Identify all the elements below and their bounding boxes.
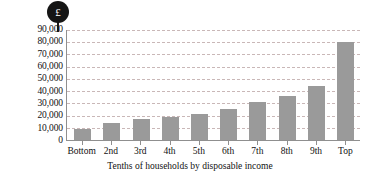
bar-series	[68, 30, 360, 140]
x-axis-label-4th: 4th	[155, 145, 184, 159]
currency-badge-icon: £	[47, 1, 69, 23]
bar-3rd[interactable]	[133, 119, 150, 140]
bar-slot	[331, 30, 360, 140]
y-axis-tick-label: 80,000	[0, 38, 63, 48]
bar-slot	[97, 30, 126, 140]
bar-slot	[68, 30, 97, 140]
x-axis-title: Tenths of households by disposable incom…	[0, 160, 380, 172]
plot-area	[66, 30, 360, 141]
bar-slot	[272, 30, 301, 140]
y-axis-tick-label: 50,000	[0, 75, 63, 85]
bar-bottom[interactable]	[74, 129, 91, 140]
y-axis-tick-label: 40,000	[0, 87, 63, 97]
bar-slot	[156, 30, 185, 140]
bar-2nd[interactable]	[103, 123, 120, 140]
bar-slot	[243, 30, 272, 140]
bar-4th[interactable]	[162, 117, 179, 140]
y-axis-tick-label: 30,000	[0, 99, 63, 109]
x-axis-label-9th: 9th	[301, 145, 330, 159]
y-axis-tick-label: 60,000	[0, 62, 63, 72]
bar-slot	[214, 30, 243, 140]
bar-slot	[302, 30, 331, 140]
bar-6th[interactable]	[220, 109, 237, 140]
bar-slot	[126, 30, 155, 140]
bar-5th[interactable]	[191, 114, 208, 140]
y-axis-tick-label: 10,000	[0, 124, 63, 134]
x-axis-label-6th: 6th	[213, 145, 242, 159]
bar-chart: £ 90,00080,00070,00060,00050,00040,00030…	[0, 0, 380, 179]
x-axis-label-8th: 8th	[272, 145, 301, 159]
bar-9th[interactable]	[308, 86, 325, 140]
x-axis-label-7th: 7th	[243, 145, 272, 159]
y-axis-tick-label: 70,000	[0, 50, 63, 60]
x-axis-label-2nd: 2nd	[96, 145, 125, 159]
y-axis-tick-label: 0	[0, 136, 63, 146]
bar-7th[interactable]	[249, 102, 266, 140]
bar-8th[interactable]	[279, 96, 296, 140]
x-axis-label-5th: 5th	[184, 145, 213, 159]
x-axis-labels: Bottom2nd3rd4th5th6th7th8th9thTop	[67, 145, 360, 159]
x-axis-label-top: Top	[331, 145, 360, 159]
y-axis-tick-label: 20,000	[0, 112, 63, 122]
x-axis-label-bottom: Bottom	[67, 145, 96, 159]
bar-slot	[185, 30, 214, 140]
x-axis-label-3rd: 3rd	[126, 145, 155, 159]
y-axis-labels: 90,00080,00070,00060,00050,00040,00030,0…	[0, 30, 63, 141]
y-axis-tick-label: 90,000	[0, 25, 63, 35]
bar-top[interactable]	[337, 42, 354, 140]
